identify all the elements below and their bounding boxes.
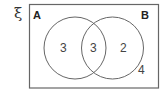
region-a-and-b: 3 <box>90 42 97 54</box>
set-b-label: B <box>141 10 149 21</box>
venn-diagram <box>0 0 161 92</box>
set-a-label: A <box>33 10 41 21</box>
region-outside: 4 <box>138 64 145 76</box>
region-b-only: 2 <box>120 42 127 54</box>
region-a-only: 3 <box>60 42 67 54</box>
universal-set-symbol: ξ <box>14 6 22 21</box>
